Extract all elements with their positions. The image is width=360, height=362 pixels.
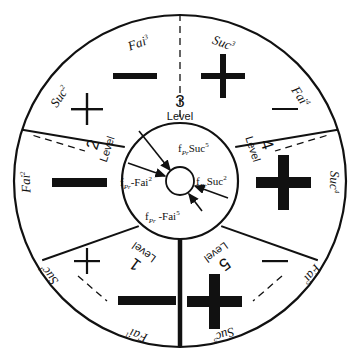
sign-minus-fai-4: [272, 108, 298, 110]
sign-minus-fai-2: [52, 178, 107, 187]
level-3-word: Level: [167, 110, 193, 122]
wheel-diagram: fPrSuc5 fPr-Fai2 fPrSuc2 fPr -Fai5 3 Lev…: [0, 0, 360, 362]
wheel-svg: fPrSuc5 fPr-Fai2 fPrSuc2 fPr -Fai5 3 Lev…: [0, 0, 360, 362]
core-node: [166, 167, 194, 195]
sign-minus-fai-3: [113, 73, 157, 79]
sign-minus-fai-1: [118, 296, 176, 305]
sign-minus-fai-5: [262, 260, 288, 262]
level-3-number: 3: [175, 92, 184, 111]
